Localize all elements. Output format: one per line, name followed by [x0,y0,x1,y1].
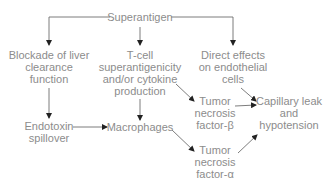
node-label: hypotension [254,119,324,131]
node-label: superantigenicity [95,61,185,73]
node-label: clearance [4,61,94,73]
node-label: T-cell [95,49,185,61]
node-direct-effects: Direct effects on endothelial cells [188,49,278,85]
node-label: spillover [14,132,84,144]
edge-superantigen-direct [171,17,233,45]
node-label: necrosis [190,107,240,119]
node-label: Tumor [190,95,240,107]
node-endotoxin: Endotoxin spillover [14,120,84,144]
node-blockade: Blockade of liver clearance function [4,49,94,85]
node-label: Tumor [190,144,240,156]
node-label: cells [188,73,278,85]
node-tnf-alpha: Tumor necrosis factor-α [190,144,240,180]
node-label: function [4,73,94,85]
node-superantigen: Superantigen [100,11,180,23]
node-capillary-leak: Capillary leak and hypotension [254,95,324,131]
node-label: Superantigen [100,11,180,23]
node-label: necrosis [190,156,240,168]
node-label: Capillary leak [254,95,324,107]
node-label: and [254,107,324,119]
node-label: on endothelial [188,61,278,73]
node-label: Direct effects [188,49,278,61]
node-label: factor-α [190,168,240,180]
node-label: Endotoxin [14,120,84,132]
node-label: production [95,85,185,97]
node-macrophages: Macrophages [105,121,175,133]
node-label: Macrophages [105,121,175,133]
node-label: Blockade of liver [4,49,94,61]
edge-tnfalpha-capillary [238,135,257,153]
node-label: factor-β [190,119,240,131]
node-tcell: T-cell superantigenicity and/or cytokine… [95,49,185,97]
node-label: and/or cytokine [95,73,185,85]
node-tnf-beta: Tumor necrosis factor-β [190,95,240,131]
